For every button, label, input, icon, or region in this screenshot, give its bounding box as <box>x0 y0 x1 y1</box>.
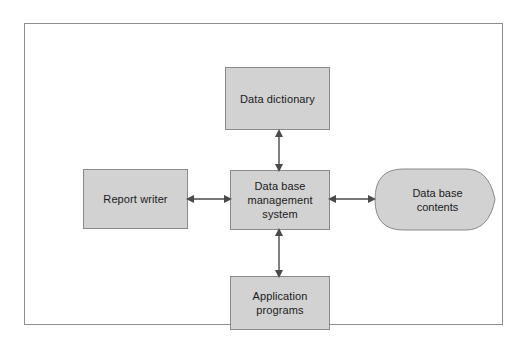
connector-report-writer-dbms <box>186 192 232 206</box>
double-arrow-icon <box>328 192 376 206</box>
node-database-contents-label: Data base contents <box>373 168 496 231</box>
connector-dbms-application-programs <box>272 228 286 278</box>
double-arrow-icon <box>272 228 286 278</box>
node-application-programs-label: Application programs <box>249 289 312 317</box>
node-report-writer[interactable]: Report writer <box>83 169 188 229</box>
double-arrow-icon <box>186 192 232 206</box>
node-database-management-system-label: Data base management system <box>243 179 316 221</box>
double-arrow-icon <box>272 129 286 172</box>
diagram-canvas: Data dictionary Report writer Data base … <box>0 0 527 343</box>
node-database-management-system[interactable]: Data base management system <box>230 170 330 230</box>
node-application-programs[interactable]: Application programs <box>230 276 330 330</box>
node-data-dictionary-label: Data dictionary <box>236 92 319 106</box>
diagram-frame: Data dictionary Report writer Data base … <box>24 23 503 325</box>
node-data-dictionary[interactable]: Data dictionary <box>225 67 330 130</box>
connector-dbms-database-contents <box>328 192 376 206</box>
node-database-contents[interactable]: Data base contents <box>373 168 496 231</box>
connector-dictionary-dbms <box>272 129 286 172</box>
node-report-writer-label: Report writer <box>99 192 171 206</box>
